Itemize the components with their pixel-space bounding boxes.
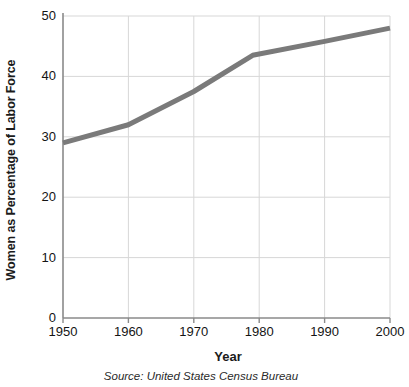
y-tick-label: 20 — [22, 190, 56, 203]
x-axis-title: Year — [63, 349, 393, 364]
data-series-line — [63, 28, 390, 143]
x-tick-label: 1960 — [98, 325, 158, 338]
y-tick-labels: 01020304050 — [22, 0, 56, 340]
x-tick-label: 1990 — [295, 325, 355, 338]
y-tick-label: 0 — [22, 311, 56, 324]
x-tick-label: 1980 — [229, 325, 289, 338]
y-tick-label: 10 — [22, 251, 56, 264]
plot-svg — [0, 0, 402, 340]
plot-area — [0, 0, 402, 340]
x-tick-label: 2000 — [360, 325, 409, 338]
series-path — [63, 28, 390, 143]
y-tick-label: 40 — [22, 69, 56, 82]
source-caption: Source: United States Census Bureau — [0, 370, 402, 382]
y-tick-label: 30 — [22, 130, 56, 143]
x-tick-labels: 195019601970198019902000 — [0, 325, 402, 343]
x-tick-label: 1950 — [33, 325, 93, 338]
y-tick-label: 50 — [22, 9, 56, 22]
gridlines — [63, 16, 390, 318]
axis-lines — [63, 13, 390, 318]
x-tick-label: 1970 — [164, 325, 224, 338]
